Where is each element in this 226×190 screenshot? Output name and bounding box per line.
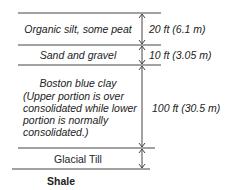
layer-4-label: Glacial Till: [18, 153, 138, 166]
layer-3-note-line-1: (Upper portion is over: [23, 90, 124, 103]
layer-1-label: Organic silt, some peat: [18, 23, 138, 36]
layer-2-thickness: 10 ft (3.05 m): [149, 49, 211, 62]
layer-3-note-line-4: consolidated.): [23, 126, 88, 139]
layer-3-thickness: 100 ft (30.5 m): [152, 102, 220, 115]
layer-3-note-line-3: portion is normally: [23, 114, 108, 127]
base-layer-label: Shale: [47, 175, 75, 188]
layer-2-label: Sand and gravel: [18, 49, 138, 62]
layer-1-thickness: 20 ft (6.1 m): [149, 23, 206, 36]
layer-3-note-line-2: consolidated while lower: [23, 102, 137, 115]
dimension-arrows: [139, 14, 145, 168]
layer-3-label: Boston blue clay: [18, 77, 138, 90]
